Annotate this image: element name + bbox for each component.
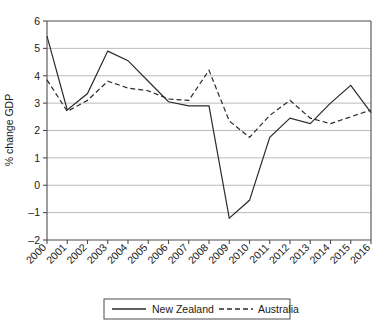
x-tick-label: 2010 xyxy=(226,241,251,266)
y-axis-title: % change GDP xyxy=(3,94,15,166)
y-axis-title-group: % change GDP xyxy=(3,94,15,166)
x-tick-label: 2008 xyxy=(185,241,210,266)
gdp-change-line-chart: –2–10123456 2000200120022003200420052006… xyxy=(0,0,390,324)
x-tick-label: 2006 xyxy=(145,241,170,266)
y-tick-label: 5 xyxy=(34,42,40,54)
x-axis-ticks-group: 2000200120022003200420052006200720082009… xyxy=(23,240,372,266)
y-tick-label: 2 xyxy=(34,124,40,136)
x-tick-label: 2005 xyxy=(125,241,150,266)
x-tick-label: 2002 xyxy=(64,241,89,266)
x-tick-label: 2015 xyxy=(327,241,352,266)
chart-svg: –2–10123456 2000200120022003200420052006… xyxy=(0,0,390,324)
x-tick-label: 2003 xyxy=(84,241,109,266)
x-tick-label: 2004 xyxy=(104,241,129,266)
y-tick-label: 3 xyxy=(34,97,40,109)
y-tick-label: –1 xyxy=(28,206,40,218)
x-tick-label: 2009 xyxy=(206,241,231,266)
x-tick-label: 2007 xyxy=(165,241,190,266)
x-tick-label: 2016 xyxy=(347,241,372,266)
legend-label-new-zealand: New Zealand xyxy=(152,303,214,315)
x-tick-label: 2000 xyxy=(23,241,48,266)
x-tick-label: 2014 xyxy=(307,241,332,266)
y-tick-label: 4 xyxy=(34,70,40,82)
y-tick-label: 6 xyxy=(34,15,40,27)
legend: New Zealand Australia xyxy=(104,299,299,319)
x-tick-label: 2012 xyxy=(266,241,291,266)
x-tick-label: 2001 xyxy=(44,241,69,266)
x-tick-label: 2013 xyxy=(287,241,312,266)
y-tick-label: 1 xyxy=(34,152,40,164)
y-tick-label: 0 xyxy=(34,179,40,191)
y-axis-ticks-group: –2–10123456 xyxy=(28,15,47,246)
x-tick-label: 2011 xyxy=(247,241,272,266)
legend-label-australia: Australia xyxy=(258,303,299,315)
